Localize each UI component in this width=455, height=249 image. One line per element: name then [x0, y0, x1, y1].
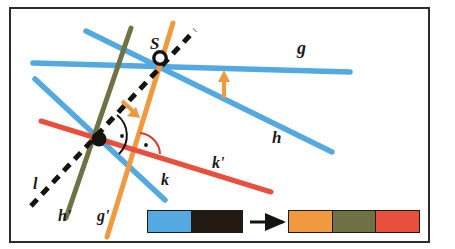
label-k-prime: k' — [212, 155, 224, 171]
line-g — [33, 63, 350, 72]
direction-arrow-down-right — [122, 101, 140, 118]
label-l: l — [33, 176, 37, 192]
point-S-marker — [154, 52, 166, 64]
label-g-prime: g' — [97, 208, 109, 224]
label-g: g — [297, 39, 306, 57]
label-k: k — [161, 172, 169, 188]
figure-canvas: S g h k k' l h' g' — [0, 0, 455, 249]
right-angle-dot-2 — [144, 143, 148, 147]
right-angle-dot-1 — [120, 134, 124, 138]
line-l — [31, 30, 195, 206]
label-S: S — [150, 35, 159, 52]
point-intersection-marker — [92, 132, 107, 147]
label-h: h — [272, 129, 281, 146]
label-h-prime: h' — [58, 208, 71, 224]
